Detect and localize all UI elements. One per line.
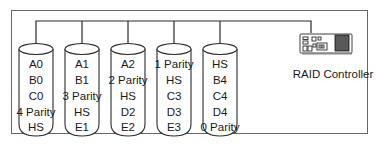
block-label: HS: [74, 106, 90, 118]
block-label: 4 Parity: [17, 106, 56, 118]
raid-diagram: A0 B0 C0 4 Parity HS A1 B1 3 Parity HS E…: [0, 0, 376, 162]
block-label: C3: [167, 90, 182, 102]
block-label: A0: [29, 58, 43, 70]
disk-top-icon: [157, 44, 191, 55]
block-label: HS: [28, 121, 44, 133]
disk-top-icon: [65, 44, 99, 55]
block-label: D4: [213, 106, 228, 118]
block-label: E2: [121, 121, 135, 133]
disk-top-icon: [111, 44, 145, 55]
block-label: 3 Parity: [63, 90, 102, 102]
disk-3: A2 2 Parity HS D2 E2: [109, 44, 148, 137]
block-label: A2: [121, 58, 135, 70]
block-label: D2: [121, 106, 136, 118]
block-label: C4: [213, 90, 228, 102]
block-label: HS: [120, 90, 136, 102]
block-label: E1: [75, 121, 89, 133]
block-label: 2 Parity: [109, 74, 148, 86]
bus-connector: [36, 21, 311, 44]
block-label: A1: [75, 58, 89, 70]
block-label: B1: [75, 74, 89, 86]
block-label: C0: [29, 90, 44, 102]
raid-controller-card-icon: [300, 34, 352, 55]
disk-top-icon: [19, 44, 53, 55]
block-label: E3: [167, 121, 181, 133]
block-label: 0 Parity: [201, 121, 240, 133]
disk-2: A1 B1 3 Parity HS E1: [63, 44, 102, 137]
disk-5: HS B4 C4 D4 0 Parity: [201, 44, 240, 137]
block-label: D3: [167, 106, 182, 118]
block-label: B4: [213, 74, 228, 86]
disk-top-icon: [203, 44, 237, 55]
block-label: HS: [166, 74, 182, 86]
raid-controller-label: RAID Controller: [293, 68, 374, 80]
block-label: HS: [212, 58, 228, 70]
block-label: B0: [29, 74, 43, 86]
block-label: 1 Parity: [155, 58, 194, 70]
disk-4: 1 Parity HS C3 D3 E3: [155, 44, 194, 137]
disk-1: A0 B0 C0 4 Parity HS: [17, 44, 56, 137]
